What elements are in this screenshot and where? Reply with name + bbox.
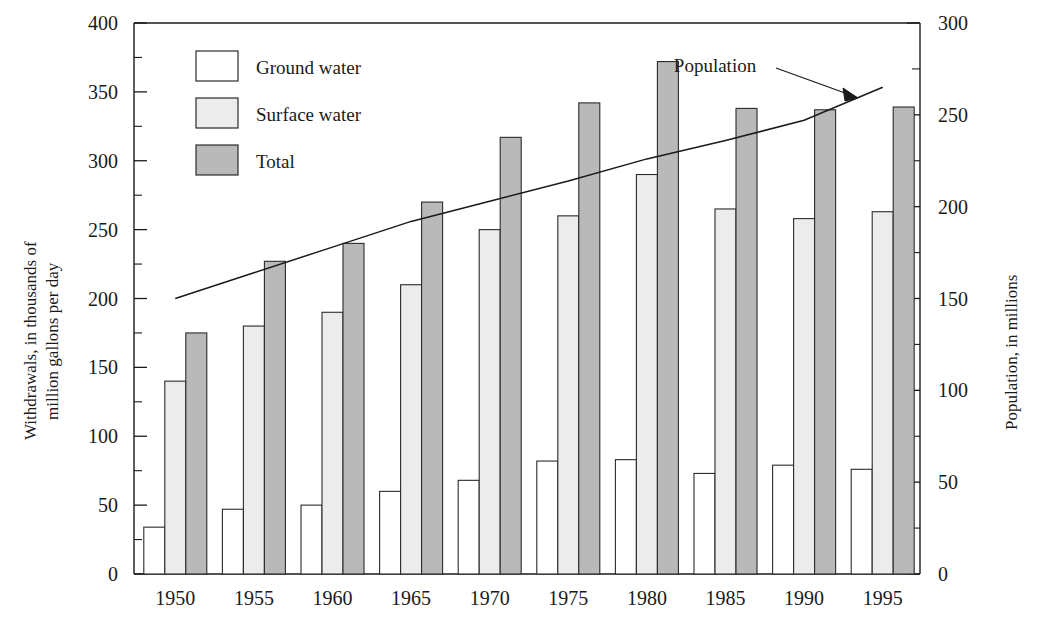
left-tick-label: 150 xyxy=(88,356,118,378)
legend-label-total: Total xyxy=(256,151,295,172)
x-tick-label-1985: 1985 xyxy=(706,587,746,609)
x-tick-label-1980: 1980 xyxy=(627,587,667,609)
x-tick-label-1970: 1970 xyxy=(470,587,510,609)
right-axis-title: Population, in millions xyxy=(1002,275,1021,430)
light-gray-swatch xyxy=(196,98,238,128)
bar-total-1950 xyxy=(186,333,207,574)
bar-ground-water-1990 xyxy=(773,465,794,574)
left-tick-label: 250 xyxy=(88,219,118,241)
right-tick-label: 100 xyxy=(938,379,968,401)
bar-total-1990 xyxy=(815,110,836,574)
left-axis-title-line1: Withdrawals, in thousands of xyxy=(21,241,40,440)
bar-surface-water-1990 xyxy=(794,219,815,574)
left-tick-label: 200 xyxy=(88,288,118,310)
bar-total-1985 xyxy=(736,108,757,574)
x-tick-label-1975: 1975 xyxy=(548,587,588,609)
bar-surface-water-1955 xyxy=(243,326,264,574)
bar-total-1980 xyxy=(657,62,678,574)
right-tick-label: 50 xyxy=(938,471,958,493)
x-tick-label-1965: 1965 xyxy=(391,587,431,609)
left-tick-label: 50 xyxy=(98,494,118,516)
left-axis-title: Withdrawals, in thousands of million gal… xyxy=(21,241,62,440)
population-annotation: Population xyxy=(674,55,858,101)
legend-label-ground-water: Ground water xyxy=(256,57,362,78)
x-tick-label-1960: 1960 xyxy=(313,587,353,609)
left-axis-title-line2: million gallons per day xyxy=(43,262,62,420)
bar-ground-water-1955 xyxy=(222,509,243,574)
bar-ground-water-1995 xyxy=(851,469,872,574)
left-tick-label: 100 xyxy=(88,425,118,447)
bar-ground-water-1985 xyxy=(694,473,715,574)
bar-surface-water-1985 xyxy=(715,209,736,574)
bar-total-1965 xyxy=(422,202,443,574)
bar-ground-water-1965 xyxy=(380,491,401,574)
bar-surface-water-1970 xyxy=(479,230,500,574)
bar-total-1960 xyxy=(343,243,364,574)
x-tick-label-1990: 1990 xyxy=(784,587,824,609)
left-axis-tick-labels: 050100150200250300350400 xyxy=(88,12,118,585)
bar-ground-water-1975 xyxy=(537,461,558,574)
white-swatch xyxy=(196,51,238,81)
legend: Ground water Surface water Total xyxy=(196,51,362,175)
bar-ground-water-1980 xyxy=(615,460,636,574)
right-tick-label: 200 xyxy=(938,196,968,218)
right-tick-label: 0 xyxy=(938,563,948,585)
bar-surface-water-1965 xyxy=(401,285,422,574)
legend-label-surface-water: Surface water xyxy=(256,104,362,125)
bar-surface-water-1975 xyxy=(558,216,579,574)
left-axis-ticks xyxy=(134,23,147,574)
bar-surface-water-1950 xyxy=(165,381,186,574)
x-tick-label-1950: 1950 xyxy=(155,587,195,609)
right-tick-label: 150 xyxy=(938,288,968,310)
bar-ground-water-1950 xyxy=(144,527,165,574)
water-withdrawals-chart: 050100150200250300350400 050100150200250… xyxy=(0,0,1039,631)
x-tick-label-1955: 1955 xyxy=(234,587,274,609)
bar-ground-water-1960 xyxy=(301,505,322,574)
left-tick-label: 0 xyxy=(108,563,118,585)
x-axis-tick-labels: 1950195519601965197019751980198519901995 xyxy=(155,587,902,609)
bar-surface-water-1995 xyxy=(872,212,893,574)
medium-gray-swatch xyxy=(196,145,238,175)
bar-total-1955 xyxy=(264,261,285,574)
left-tick-label: 350 xyxy=(88,81,118,103)
bar-ground-water-1970 xyxy=(458,480,479,574)
bar-surface-water-1960 xyxy=(322,312,343,574)
right-tick-label: 300 xyxy=(938,12,968,34)
chart-figure: 050100150200250300350400 050100150200250… xyxy=(0,0,1039,631)
left-tick-label: 300 xyxy=(88,150,118,172)
population-annotation-label: Population xyxy=(674,55,757,76)
x-tick-label-1995: 1995 xyxy=(863,587,903,609)
bar-total-1970 xyxy=(500,137,521,574)
bars-layer xyxy=(144,62,914,574)
bar-surface-water-1980 xyxy=(636,175,657,574)
left-tick-label: 400 xyxy=(88,12,118,34)
right-tick-label: 250 xyxy=(938,104,968,126)
bar-total-1995 xyxy=(893,107,914,574)
right-axis-tick-labels: 050100150200250300 xyxy=(938,12,968,585)
